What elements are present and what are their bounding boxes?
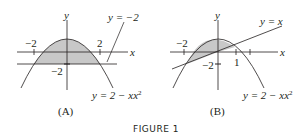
panel-b-tick-y-neg2: −2 <box>202 60 214 71</box>
panel-a-leader-line <box>107 22 124 62</box>
figure-caption: FIGURE 1 <box>133 124 179 134</box>
panel-a-label-y-neg2: y = −2 <box>108 12 139 23</box>
panel-a-caption: (A) <box>58 106 73 117</box>
panel-b-tick-1: 1 <box>234 57 240 68</box>
panel-b-graph <box>170 20 282 90</box>
panel-b-label-y-eq-x: y = x <box>260 16 283 27</box>
panel-a-graph <box>17 20 128 90</box>
panel-a-tick-2: 2 <box>97 38 103 49</box>
panel-a-tick-y-neg2: −2 <box>51 66 63 77</box>
panel-a-tick-neg2: −2 <box>25 38 37 49</box>
panel-b-caption: (B) <box>210 106 225 117</box>
panel-a-label-parabola: y = 2 − xx2 <box>92 90 142 101</box>
panel-b-tick-neg2: −2 <box>176 38 188 49</box>
panel-b-label-parabola: y = 2 − xx2 <box>243 90 293 101</box>
panel-a-x-axis-label: x <box>130 47 135 58</box>
panel-b-x-axis-label: x <box>280 47 285 58</box>
panel-a-y-axis-label: y <box>64 10 69 21</box>
panel-b-line-y-eq-x <box>172 26 282 69</box>
panel-b-y-axis-label: y <box>215 10 220 21</box>
figure-canvas <box>0 0 303 136</box>
